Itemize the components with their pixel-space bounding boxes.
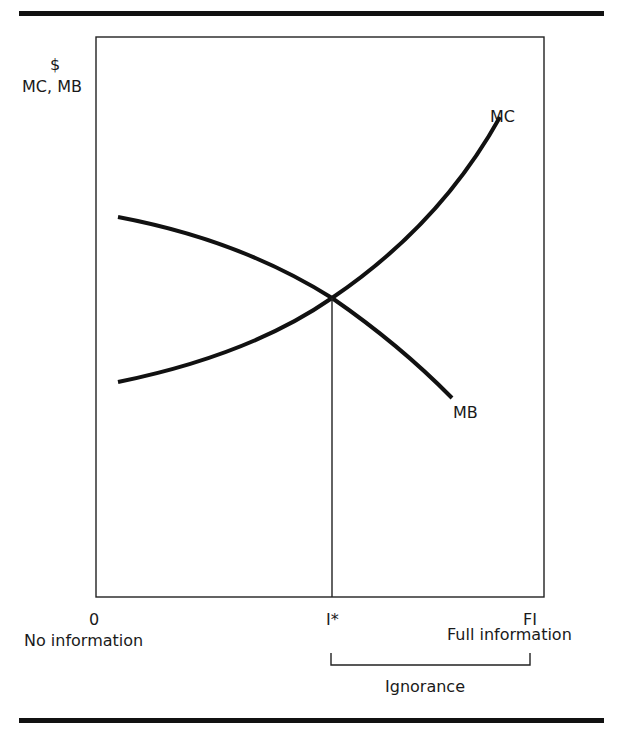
y-axis-label: MC, MB <box>22 78 82 96</box>
ignorance-label: Ignorance <box>385 678 465 696</box>
ignorance-bracket <box>331 653 530 665</box>
istar-label: I* <box>326 611 339 629</box>
origin-label: 0 <box>89 611 99 629</box>
no-info-label: No information <box>24 632 143 650</box>
mb-label: MB <box>453 404 478 422</box>
full-info-label: Full information <box>447 626 572 644</box>
dollar-label: $ <box>50 56 60 74</box>
mc-curve <box>118 117 500 382</box>
mc-label: MC <box>490 108 515 126</box>
plot-frame <box>96 37 544 597</box>
